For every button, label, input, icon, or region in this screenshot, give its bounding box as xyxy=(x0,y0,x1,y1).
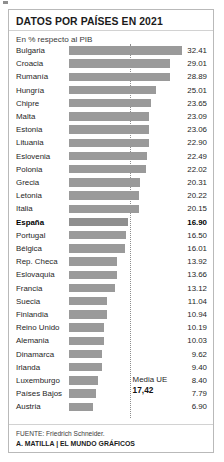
chart-row: Bélgica16.01 xyxy=(9,242,213,255)
chart-row: Eslovenia22.49 xyxy=(9,150,213,163)
value-bar xyxy=(69,310,107,318)
value-label: 32.41 xyxy=(187,46,207,55)
chart-row: Dinamarca9.62 xyxy=(9,348,213,361)
value-bar xyxy=(69,152,147,160)
source-note: FUENTE: Friedrich Schneider. xyxy=(16,430,105,437)
country-label: Malta xyxy=(16,112,35,121)
country-label: Hungría xyxy=(16,86,44,95)
chart-row: Grecia20.31 xyxy=(9,176,213,189)
value-label: 16.50 xyxy=(187,231,207,240)
chart-row: Bulgaria32.41 xyxy=(9,44,213,57)
country-label: Chipre xyxy=(16,99,39,108)
value-bar xyxy=(69,205,139,213)
chart-subtitle: En % respecto al PIB xyxy=(16,35,92,44)
value-label: 13.12 xyxy=(187,284,207,293)
value-bar xyxy=(69,191,139,199)
country-label: Grecia xyxy=(16,178,39,187)
value-label: 10.03 xyxy=(187,336,207,345)
chart-row: Francia13.12 xyxy=(9,282,213,295)
country-label: Países Bajos xyxy=(16,389,62,398)
value-label: 20.31 xyxy=(187,178,207,187)
chart-row: España16.90 xyxy=(9,216,213,229)
chart-row: Países Bajos7.79 xyxy=(9,387,213,400)
value-bar xyxy=(69,125,149,133)
chart-row: Estonia23.06 xyxy=(9,123,213,136)
value-label: 16.01 xyxy=(187,244,207,253)
value-label: 20.15 xyxy=(187,204,207,213)
country-label: Eslovaquia xyxy=(16,270,55,279)
page-title: DATOS POR PAÍSES EN 2021 xyxy=(16,16,163,27)
country-label: Dinamarca xyxy=(16,350,54,359)
value-bar xyxy=(69,403,93,411)
value-bar xyxy=(69,218,128,226)
value-bar xyxy=(69,86,156,94)
chart-row: Luxemburgo8.40 xyxy=(9,374,213,387)
value-label: 22.02 xyxy=(187,165,207,174)
value-label: 9.40 xyxy=(192,363,207,372)
chart-row: Eslovaquia13.66 xyxy=(9,268,213,281)
value-label: 22.90 xyxy=(187,138,207,147)
chart-row: Portugal16.50 xyxy=(9,229,213,242)
value-bar xyxy=(69,323,104,331)
value-label: 20.22 xyxy=(187,191,207,200)
country-label: Portugal xyxy=(16,231,45,240)
country-label: Suecia xyxy=(16,297,40,306)
country-label: Italia xyxy=(16,204,33,213)
value-bar xyxy=(69,231,126,239)
value-label: 6.90 xyxy=(192,402,207,411)
country-label: Luxemburgo xyxy=(16,376,60,385)
value-label: 29.01 xyxy=(187,59,207,68)
chart-row: Italia20.15 xyxy=(9,202,213,215)
chart-row: Irlanda9.40 xyxy=(9,361,213,374)
value-label: 11.04 xyxy=(188,297,207,306)
chart-row: Chipre23.65 xyxy=(9,97,213,110)
value-bar xyxy=(69,389,96,397)
chart-row: Alemania10.03 xyxy=(9,334,213,347)
country-label: Rumanía xyxy=(16,72,48,81)
chart-row: Hungría25.01 xyxy=(9,84,213,97)
country-label: Bélgica xyxy=(16,244,42,253)
chart-row: Rep. Checa13.92 xyxy=(9,255,213,268)
chart-row: Croacia29.01 xyxy=(9,57,213,70)
chart-row: Malta23.09 xyxy=(9,110,213,123)
country-label: Eslovenia xyxy=(16,152,50,161)
value-bar xyxy=(69,59,170,67)
country-label: Finlandia xyxy=(16,310,48,319)
value-bar xyxy=(69,99,151,107)
chart-row: Reino Unido10.19 xyxy=(9,321,213,334)
chart-row: Polonia22.02 xyxy=(9,163,213,176)
value-label: 10.94 xyxy=(187,310,207,319)
credit-note: A. MATILLA | EL MUNDO GRÁFICOS xyxy=(16,440,135,447)
value-bar xyxy=(69,350,102,358)
country-label: Bulgaria xyxy=(16,46,45,55)
value-label: 13.66 xyxy=(187,270,207,279)
country-label: Lituania xyxy=(16,138,44,147)
value-bar xyxy=(69,297,107,305)
scan-artifact-speck xyxy=(3,1,8,4)
value-label: 23.65 xyxy=(187,99,207,108)
country-label: Austria xyxy=(16,402,41,411)
country-label: Reino Unido xyxy=(16,323,59,332)
country-label: Francia xyxy=(16,284,42,293)
value-label: 16.90 xyxy=(187,218,207,227)
value-bar xyxy=(69,46,182,54)
value-label: 23.09 xyxy=(187,112,207,121)
value-label: 22.49 xyxy=(187,152,207,161)
value-bar xyxy=(69,244,125,252)
chart-row: Austria6.90 xyxy=(9,400,213,413)
footer-divider xyxy=(9,424,213,425)
value-label: 8.40 xyxy=(192,376,207,385)
value-label: 10.19 xyxy=(187,323,207,332)
infographic-page: DATOS POR PAÍSES EN 2021 En % respecto a… xyxy=(0,0,224,462)
country-label: Croacia xyxy=(16,59,43,68)
value-bar xyxy=(69,257,117,265)
country-label: Letonia xyxy=(16,191,42,200)
value-label: 7.79 xyxy=(192,389,207,398)
value-label: 25.01 xyxy=(187,86,207,95)
country-label: Alemania xyxy=(16,336,49,345)
value-bar xyxy=(69,363,102,371)
value-bar xyxy=(69,178,140,186)
country-label: Polonia xyxy=(16,165,42,174)
country-label: Rep. Checa xyxy=(16,257,58,266)
value-bar xyxy=(69,284,115,292)
